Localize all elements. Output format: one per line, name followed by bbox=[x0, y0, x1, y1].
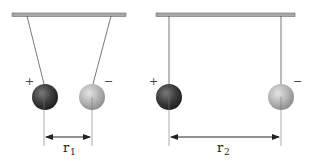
left-string-positive bbox=[27, 16, 44, 84]
coulomb-diagram: + − r 1 + − r 2 bbox=[0, 0, 309, 164]
left-negative-sign: − bbox=[104, 75, 113, 88]
r1-subscript: 1 bbox=[70, 147, 76, 157]
left-string-negative bbox=[93, 16, 111, 84]
r2-subscript: 2 bbox=[224, 147, 230, 157]
r2-label: r bbox=[217, 140, 224, 155]
left-positive-sign: + bbox=[25, 75, 34, 88]
right-panel: + − r 2 bbox=[149, 13, 302, 157]
r1-label: r bbox=[63, 140, 70, 155]
left-support-bar bbox=[12, 13, 126, 17]
right-negative-sign: − bbox=[293, 75, 302, 88]
left-positive-sphere bbox=[32, 84, 58, 110]
right-support-bar bbox=[156, 13, 295, 17]
right-positive-sign: + bbox=[149, 75, 158, 88]
left-panel: + − r 1 bbox=[12, 13, 126, 157]
